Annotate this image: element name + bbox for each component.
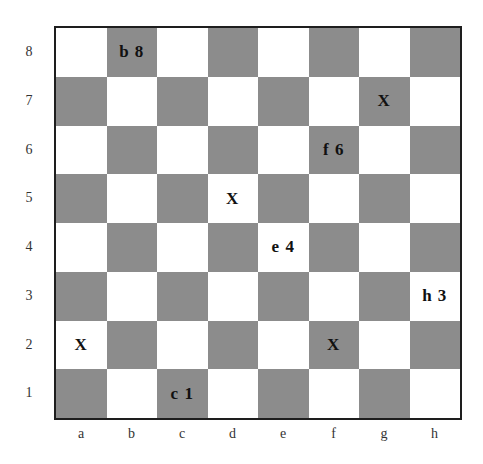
- square-label: b 8: [119, 42, 144, 62]
- square-g2: [359, 321, 410, 370]
- chessboard: b 8Xf 6Xe 4h 3XXc 1: [54, 26, 462, 420]
- square-c3: [157, 272, 208, 321]
- square-e6: [258, 126, 309, 175]
- square-d2: [208, 321, 259, 370]
- x-marker: X: [226, 189, 239, 209]
- square-a3: [56, 272, 107, 321]
- square-f4: [309, 223, 360, 272]
- square-d1: [208, 369, 259, 418]
- file-label: e: [258, 426, 308, 442]
- square-f5: [309, 174, 360, 223]
- square-a7: [56, 77, 107, 126]
- square-d8: [208, 28, 259, 77]
- file-label: g: [359, 426, 409, 442]
- square-a4: [56, 223, 107, 272]
- square-h6: [410, 126, 461, 175]
- square-g5: [359, 174, 410, 223]
- square-c5: [157, 174, 208, 223]
- square-d5: X: [208, 174, 259, 223]
- square-h8: [410, 28, 461, 77]
- square-a1: [56, 369, 107, 418]
- rank-label: 7: [22, 93, 36, 109]
- square-c1: c 1: [157, 369, 208, 418]
- file-label: b: [107, 426, 157, 442]
- square-e7: [258, 77, 309, 126]
- square-e8: [258, 28, 309, 77]
- square-d4: [208, 223, 259, 272]
- square-b7: [107, 77, 158, 126]
- square-b1: [107, 369, 158, 418]
- x-marker: X: [75, 335, 88, 355]
- rank-label: 6: [22, 142, 36, 158]
- square-f7: [309, 77, 360, 126]
- square-a5: [56, 174, 107, 223]
- square-h4: [410, 223, 461, 272]
- square-f3: [309, 272, 360, 321]
- square-b8: b 8: [107, 28, 158, 77]
- square-f2: X: [309, 321, 360, 370]
- square-e4: e 4: [258, 223, 309, 272]
- square-g1: [359, 369, 410, 418]
- file-label: f: [309, 426, 359, 442]
- square-b5: [107, 174, 158, 223]
- square-f6: f 6: [309, 126, 360, 175]
- square-a6: [56, 126, 107, 175]
- square-g6: [359, 126, 410, 175]
- square-h1: [410, 369, 461, 418]
- square-a2: X: [56, 321, 107, 370]
- square-b4: [107, 223, 158, 272]
- square-d7: [208, 77, 259, 126]
- square-h5: [410, 174, 461, 223]
- square-a8: [56, 28, 107, 77]
- square-label: f 6: [323, 140, 344, 160]
- square-g4: [359, 223, 410, 272]
- square-g7: X: [359, 77, 410, 126]
- square-f8: [309, 28, 360, 77]
- square-b3: [107, 272, 158, 321]
- square-c6: [157, 126, 208, 175]
- square-label: e 4: [272, 237, 295, 257]
- square-label: h 3: [422, 286, 447, 306]
- file-label: d: [208, 426, 258, 442]
- square-b6: [107, 126, 158, 175]
- file-label: a: [56, 426, 106, 442]
- square-c8: [157, 28, 208, 77]
- rank-label: 5: [22, 190, 36, 206]
- square-c7: [157, 77, 208, 126]
- file-label: h: [410, 426, 460, 442]
- rank-label: 8: [22, 44, 36, 60]
- square-e3: [258, 272, 309, 321]
- x-marker: X: [327, 335, 340, 355]
- rank-label: 3: [22, 288, 36, 304]
- rank-label: 2: [22, 337, 36, 353]
- square-d3: [208, 272, 259, 321]
- square-c2: [157, 321, 208, 370]
- square-e5: [258, 174, 309, 223]
- rank-label: 1: [22, 385, 36, 401]
- square-e1: [258, 369, 309, 418]
- x-marker: X: [378, 91, 391, 111]
- square-g3: [359, 272, 410, 321]
- square-label: c 1: [171, 384, 194, 404]
- file-label: c: [157, 426, 207, 442]
- square-h7: [410, 77, 461, 126]
- square-c4: [157, 223, 208, 272]
- rank-label: 4: [22, 239, 36, 255]
- square-d6: [208, 126, 259, 175]
- square-h3: h 3: [410, 272, 461, 321]
- square-b2: [107, 321, 158, 370]
- square-g8: [359, 28, 410, 77]
- square-e2: [258, 321, 309, 370]
- square-h2: [410, 321, 461, 370]
- square-f1: [309, 369, 360, 418]
